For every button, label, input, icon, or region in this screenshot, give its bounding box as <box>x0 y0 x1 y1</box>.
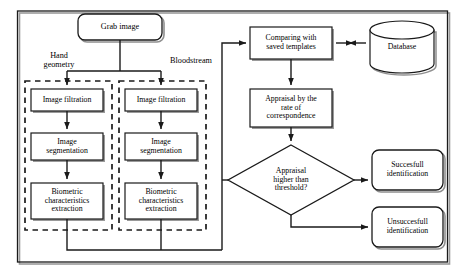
node-right-segmentation <box>125 133 199 162</box>
node-unsuccessful <box>372 207 445 249</box>
edge-bus-to-comparing <box>222 43 246 250</box>
node-decision <box>228 145 354 215</box>
edge-decision-no-to-unsuccessful <box>291 215 368 227</box>
node-right-extraction <box>125 183 199 221</box>
node-grab-image <box>78 14 164 42</box>
node-left-extraction <box>31 183 105 221</box>
node-appraisal <box>250 89 334 129</box>
node-left-segmentation <box>31 133 105 162</box>
node-right-filtration <box>125 89 199 113</box>
flowchart-canvas: Grab image Hand geometry Bloodstream Ima… <box>0 0 461 278</box>
node-database <box>370 21 436 75</box>
node-comparing <box>250 27 334 61</box>
edge-left-extraction-to-bus <box>67 219 222 250</box>
flowchart-vector-layer <box>0 0 461 278</box>
node-left-filtration <box>31 89 105 113</box>
node-successful <box>372 150 445 192</box>
